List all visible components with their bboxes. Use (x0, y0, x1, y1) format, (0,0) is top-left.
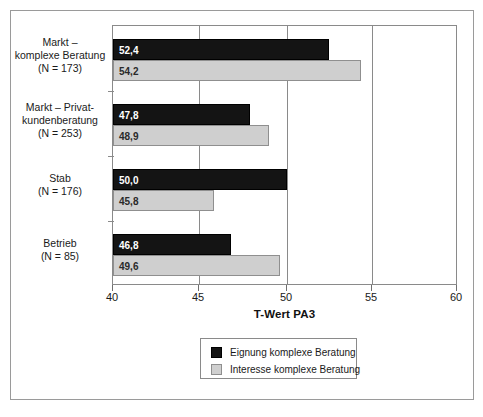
chart-figure: Markt – komplexe Beratung (N = 173) Mark… (0, 0, 483, 417)
bar-interesse-stab: 45,8 (113, 190, 214, 211)
category-label-line: (N = 253) (14, 127, 106, 140)
bar-value-label: 50,0 (119, 174, 138, 185)
bar-value-label: 46,8 (119, 239, 138, 250)
plot-area: 52,4 54,2 47,8 48,9 50,0 45,8 46,8 49,6 (112, 25, 457, 285)
chart-legend: Eignung komplexe Beratung Interesse komp… (200, 338, 357, 379)
bar-interesse-markt-privatkundenberatung: 48,9 (113, 125, 269, 146)
bar-eignung-markt-privatkundenberatung: 47,8 (113, 104, 250, 125)
gridline-55 (372, 26, 373, 284)
category-label-markt-komplexe-beratung: Markt – komplexe Beratung (N = 173) (14, 36, 106, 75)
bar-value-label: 45,8 (119, 195, 138, 206)
category-separator-tick (108, 221, 114, 222)
category-separator-tick (108, 156, 114, 157)
bar-value-label: 47,8 (119, 109, 138, 120)
category-separator-tick (108, 91, 114, 92)
x-tick-label-45: 45 (178, 291, 218, 303)
legend-label-interesse: Interesse komplexe Beratung (230, 364, 360, 375)
category-label-stab: Stab (N = 176) (14, 172, 106, 198)
category-label-betrieb: Betrieb (N = 85) (14, 237, 106, 263)
category-label-markt-privatkundenberatung: Markt – Privat- kundenberatung (N = 253) (14, 101, 106, 140)
bar-eignung-stab: 50,0 (113, 169, 287, 190)
legend-item-interesse: Interesse komplexe Beratung (211, 361, 360, 377)
x-tick-label-55: 55 (351, 291, 391, 303)
x-axis-title: T-Wert PA3 (112, 308, 457, 320)
category-label-line: (N = 173) (14, 62, 106, 75)
bar-value-label: 54,2 (119, 65, 138, 76)
x-tick-label-50: 50 (266, 291, 306, 303)
legend-swatch-light-icon (211, 364, 222, 375)
bar-value-label: 48,9 (119, 130, 138, 141)
bar-value-label: 49,6 (119, 260, 138, 271)
category-label-line: Stab (14, 172, 106, 185)
bar-eignung-betrieb: 46,8 (113, 234, 231, 255)
bar-interesse-markt-komplexe-beratung: 54,2 (113, 60, 361, 81)
category-label-line: Markt – (14, 36, 106, 49)
category-label-line: komplexe Beratung (14, 49, 106, 62)
legend-swatch-dark-icon (211, 347, 222, 358)
legend-label-eignung: Eignung komplexe Beratung (230, 347, 356, 358)
legend-item-eignung: Eignung komplexe Beratung (211, 344, 356, 360)
bar-eignung-markt-komplexe-beratung: 52,4 (113, 39, 329, 60)
category-label-line: (N = 176) (14, 185, 106, 198)
category-label-line: Betrieb (14, 237, 106, 250)
category-label-line: Markt – Privat- (14, 101, 106, 114)
bar-interesse-betrieb: 49,6 (113, 255, 280, 276)
category-label-line: (N = 85) (14, 250, 106, 263)
x-tick-label-60: 60 (436, 291, 476, 303)
category-label-line: kundenberatung (14, 114, 106, 127)
bar-value-label: 52,4 (119, 44, 138, 55)
x-tick-label-40: 40 (92, 291, 132, 303)
